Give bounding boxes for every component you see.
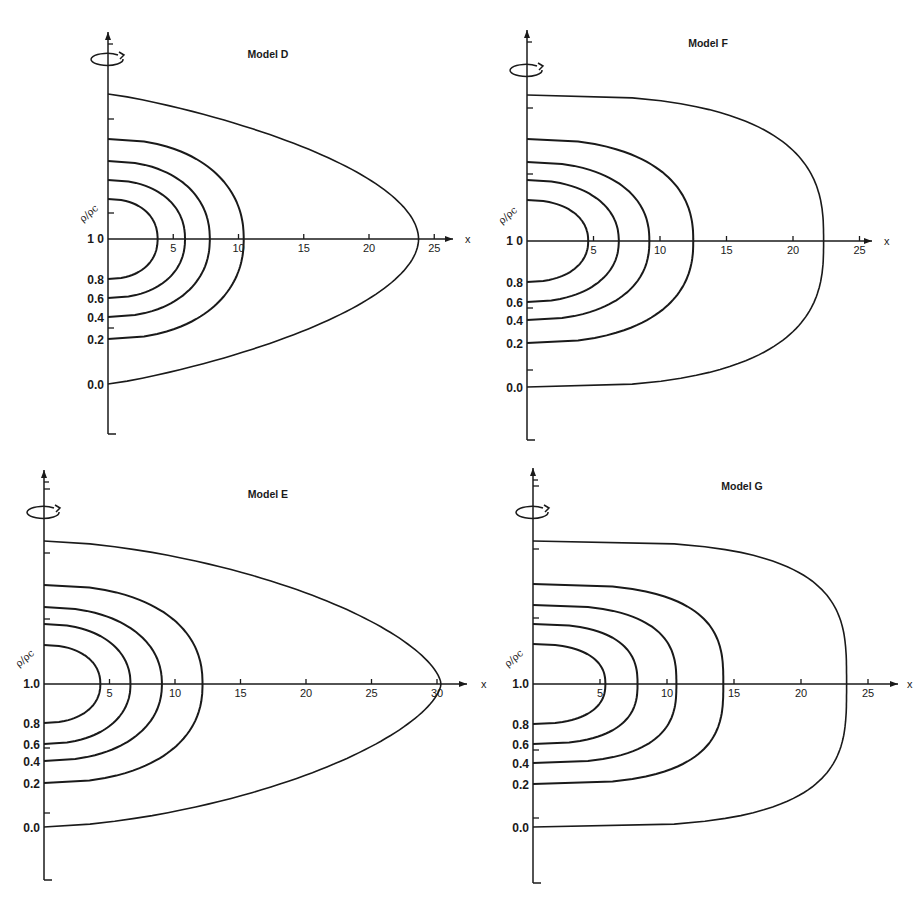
panel-title: Model G [721, 480, 762, 492]
y-level-label: 1 0 [506, 234, 523, 248]
y-level-label: 0.4 [506, 314, 523, 328]
x-axis-label: x [907, 678, 913, 690]
y-level-label: 1 0 [87, 232, 104, 246]
y-axis-label-text: ρ/ρc [13, 647, 36, 669]
x-axis-label: x [465, 233, 471, 245]
x-tick-label: 5 [106, 687, 112, 699]
y-axis-label-text: ρ/ρc [502, 647, 525, 669]
x-tick-label: 10 [169, 687, 181, 699]
y-level-label: 0.4 [87, 311, 104, 325]
y-level-label: 0.4 [512, 757, 529, 771]
y-level-label: 1.0 [512, 677, 529, 691]
y-axis-arrow-icon [105, 32, 111, 40]
x-tick-label: 15 [298, 242, 310, 254]
y-level-label: 0.6 [23, 738, 40, 752]
x-tick-label: 20 [787, 244, 799, 256]
y-level-label: 0.0 [506, 381, 523, 395]
x-tick-label: 10 [654, 244, 666, 256]
y-axis-arrow-icon [41, 470, 47, 478]
y-level-label: 0.8 [87, 273, 104, 287]
y-level-label: 0.6 [506, 296, 523, 310]
x-tick-label: 25 [428, 242, 440, 254]
y-axis-label-text: ρ/ρc [77, 202, 100, 224]
y-level-label: 0.8 [23, 717, 40, 731]
y-axis-arrow-icon [524, 30, 530, 38]
x-tick-label: 5 [590, 244, 596, 256]
x-tick-label: 20 [795, 687, 807, 699]
y-axis-arrow-icon [530, 468, 536, 476]
x-tick-label: 25 [853, 244, 865, 256]
panel-title: Model D [248, 48, 289, 60]
panel-model-f: Model F x ρ/ρc 5101520251 00.80.60.40.20… [496, 30, 890, 440]
panel-title: Model F [688, 37, 728, 49]
x-tick-label: 10 [661, 687, 673, 699]
panel-title: Model E [248, 488, 288, 500]
y-level-label: 0.4 [23, 755, 40, 769]
x-axis-label: x [884, 235, 890, 247]
y-level-label: 0.0 [23, 821, 40, 835]
y-level-label: 0.2 [506, 337, 523, 351]
panel-model-d: Model D x ρ/ρc 5101520251 00.80.60.40.20… [77, 32, 471, 434]
x-tick-label: 25 [365, 687, 377, 699]
x-tick-label: 20 [363, 242, 375, 254]
x-tick-label: 5 [170, 242, 176, 254]
panel-model-g: Model G x ρ/ρc 5101520251.00.80.60.40.20… [502, 468, 913, 883]
y-level-label: 0.8 [512, 718, 529, 732]
y-level-label: 0.8 [506, 276, 523, 290]
x-axis-arrow-icon [459, 681, 467, 687]
x-axis-arrow-icon [890, 681, 898, 687]
x-tick-label: 15 [720, 244, 732, 256]
y-level-label: 0.0 [512, 821, 529, 835]
y-axis-label: ρ/ρc [496, 204, 519, 226]
y-level-label: 0.2 [87, 333, 104, 347]
y-axis-label: ρ/ρc [77, 202, 100, 224]
x-tick-label: 15 [728, 687, 740, 699]
figure-models-d-e-f-g: Model D x ρ/ρc 5101520251 00.80.60.40.20… [0, 0, 922, 897]
y-axis-label-text: ρ/ρc [496, 204, 519, 226]
y-level-label: 0.0 [87, 378, 104, 392]
x-tick-label: 25 [862, 687, 874, 699]
x-tick-label: 15 [234, 687, 246, 699]
panel-model-e: Model E x ρ/ρc 510152025301.00.80.60.40.… [13, 470, 487, 880]
x-axis-arrow-icon [445, 236, 453, 242]
y-axis-label: ρ/ρc [13, 647, 36, 669]
x-axis-label: x [481, 678, 487, 690]
y-axis-label: ρ/ρc [502, 647, 525, 669]
y-level-label: 0.2 [23, 777, 40, 791]
y-level-label: 0.6 [87, 292, 104, 306]
x-tick-label: 20 [300, 687, 312, 699]
x-tick-label: 30 [431, 687, 443, 699]
y-level-label: 0.2 [512, 778, 529, 792]
y-level-label: 1.0 [23, 677, 40, 691]
y-level-label: 0.6 [512, 738, 529, 752]
